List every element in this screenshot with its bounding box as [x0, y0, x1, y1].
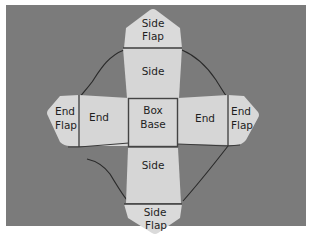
label-top-side-flap-2: Flap [142, 30, 164, 42]
label-top-side: Side [142, 65, 165, 77]
label-bottom-side-flap-2: Flap [145, 219, 167, 231]
label-bottom-side: Side [142, 159, 165, 171]
label-left-end-flap-2: Flap [55, 119, 77, 131]
box-net-diagram: Side Flap Side End Flap End Box Base End… [0, 0, 312, 238]
label-left-end: End [89, 111, 109, 123]
label-left-end-flap-1: End [55, 105, 75, 117]
label-top-side-flap-1: Side [142, 17, 165, 29]
thread-top-right [182, 50, 227, 97]
label-box-base-2: Base [140, 118, 166, 130]
bottom-side-panel [126, 148, 181, 203]
label-box-base-1: Box [143, 104, 163, 116]
label-right-end-flap-2: Flap [231, 119, 253, 131]
label-bottom-side-flap-1: Side [144, 206, 167, 218]
thread-bottom-left [87, 159, 127, 200]
label-right-end: End [195, 112, 215, 124]
thread-top-left [80, 50, 124, 97]
label-right-end-flap-1: End [231, 105, 251, 117]
thread-bottom-right [183, 146, 228, 201]
